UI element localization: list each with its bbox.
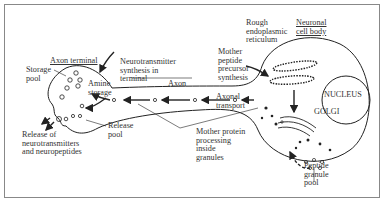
label-axon-terminal: Axon terminal	[50, 57, 98, 66]
label-axonal-transport: Axonal transport	[216, 93, 245, 110]
label-neuronal-cell-body: Neuronal cell body	[296, 19, 326, 36]
label-release-pool: Release pool	[108, 122, 133, 139]
label-amine-storage: Amine storage	[88, 80, 112, 97]
label-storage-pool: Storage pool	[26, 66, 51, 83]
label-release-of: Release of neurotransmitters and neurope…	[22, 131, 82, 157]
golgi	[278, 117, 316, 136]
rough-er	[270, 59, 318, 86]
transport-arrows	[42, 52, 310, 168]
label-golgi: GOLGI	[314, 108, 339, 117]
label-mother-peptide: Mother peptide precursor synthesis	[218, 48, 249, 82]
neuron-diagram: Axon terminal Storage pool Neurotransmit…	[0, 0, 384, 203]
label-axon: Axon	[168, 80, 186, 89]
label-rough-er: Rough endoplasmic reticulum	[246, 19, 287, 45]
label-peptide-granule-pool: Peptide granule pool	[304, 162, 329, 188]
label-mother-protein: Mother protein processing inside granule…	[196, 128, 245, 162]
label-nucleus: NUCLEUS	[324, 91, 362, 100]
storage-vesicles	[60, 71, 82, 99]
nucleus	[322, 76, 370, 124]
release-granules	[57, 104, 84, 121]
